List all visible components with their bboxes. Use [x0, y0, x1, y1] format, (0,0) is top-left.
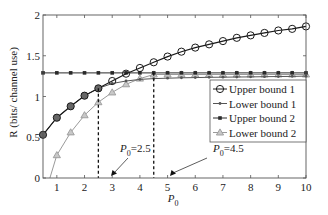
- dot-marker: [235, 76, 238, 79]
- dot-marker: [208, 76, 211, 79]
- circle-marker: [53, 114, 60, 121]
- dot-marker: [166, 77, 169, 80]
- x-tick-label: 10: [301, 181, 313, 193]
- square-marker: [290, 71, 294, 75]
- x-tick-label: 7: [220, 181, 226, 193]
- dot-marker: [263, 75, 266, 78]
- dot-marker: [291, 75, 294, 78]
- rate-bounds-chart: P0=2.5P0=4.5 1234567891000.511.52P0R (bi…: [0, 0, 328, 215]
- dot-marker: [277, 75, 280, 78]
- x-tick-label: 8: [248, 181, 254, 193]
- legend-label: Lower bound 1: [229, 98, 296, 110]
- square-marker: [218, 116, 222, 120]
- dot-marker: [222, 76, 225, 79]
- square-marker: [55, 71, 59, 75]
- square-marker: [193, 71, 197, 75]
- dot-marker: [194, 76, 197, 79]
- square-marker: [207, 71, 211, 75]
- x-tick-label: 9: [276, 181, 282, 193]
- square-marker: [235, 71, 239, 75]
- circle-marker: [67, 103, 74, 110]
- x-tick-label: 1: [54, 181, 60, 193]
- legend-label: Upper bound 1: [229, 83, 295, 95]
- dot-marker: [249, 75, 252, 78]
- dot-marker: [125, 80, 128, 83]
- square-marker: [180, 71, 184, 75]
- square-marker: [277, 71, 281, 75]
- square-marker: [69, 71, 73, 75]
- y-tick-label: 1.5: [26, 50, 40, 62]
- square-marker: [110, 71, 114, 75]
- x-tick-label: 3: [109, 181, 115, 193]
- legend-label: Lower bound 2: [229, 127, 296, 139]
- x-tick-label: 4: [137, 181, 143, 193]
- circle-marker: [81, 92, 88, 99]
- legend: Upper bound 1Lower bound 1Upper bound 2L…: [210, 80, 306, 142]
- y-tick-label: 0: [35, 172, 41, 184]
- square-marker: [221, 71, 225, 75]
- dot-marker: [180, 76, 183, 79]
- x-axis-label: P0: [167, 192, 179, 208]
- dot-marker: [219, 102, 222, 105]
- square-marker: [83, 71, 87, 75]
- dot-marker: [138, 78, 141, 81]
- square-marker: [166, 71, 170, 75]
- legend-label: Upper bound 2: [229, 112, 295, 124]
- x-tick-label: 6: [193, 181, 199, 193]
- x-tick-label: 2: [82, 181, 88, 193]
- y-tick-label: 2: [35, 9, 41, 21]
- square-marker: [97, 71, 101, 75]
- square-marker: [249, 71, 253, 75]
- y-tick-label: 1: [35, 91, 41, 103]
- y-axis-label: R (bits/ channel use): [7, 47, 20, 138]
- square-marker: [263, 71, 267, 75]
- y-tick-label: 0.5: [26, 131, 40, 143]
